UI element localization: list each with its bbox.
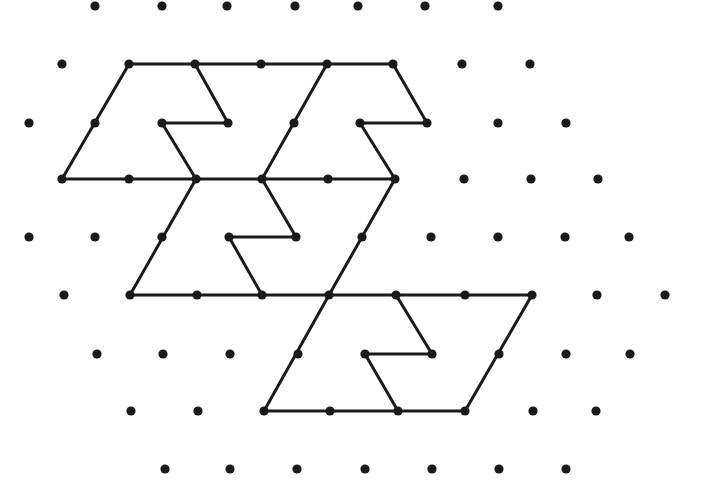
dot-grid-diagram xyxy=(0,0,715,485)
grid-dot xyxy=(157,1,166,10)
grid-dot xyxy=(525,59,534,68)
grid-dot xyxy=(224,232,233,241)
grid-dot xyxy=(459,174,468,183)
grid-dot xyxy=(322,59,331,68)
grid-dot xyxy=(126,406,135,415)
grid-dot xyxy=(193,406,202,415)
grid-dot xyxy=(390,174,399,183)
grid-dot xyxy=(59,290,68,299)
line-segment xyxy=(195,64,228,123)
grid-dot xyxy=(222,1,231,10)
grid-dot xyxy=(292,464,301,473)
grid-dot xyxy=(660,290,669,299)
grid-dot xyxy=(24,118,33,127)
grid-dot xyxy=(289,118,298,127)
grid-dot xyxy=(420,1,429,10)
grid-dot xyxy=(324,290,333,299)
grid-dot xyxy=(157,118,166,127)
grid-dot xyxy=(360,349,369,358)
grid-dot xyxy=(291,232,300,241)
grid-dot xyxy=(90,232,99,241)
grid-dot xyxy=(527,290,536,299)
line-segment xyxy=(393,64,427,123)
grid-dot xyxy=(325,406,334,415)
grid-dot xyxy=(393,406,402,415)
grid-dot xyxy=(526,174,535,183)
grid-dot xyxy=(190,59,199,68)
grid-dot xyxy=(355,118,364,127)
grid-dot xyxy=(259,406,268,415)
grid-dot xyxy=(157,232,166,241)
grid-dot xyxy=(257,290,266,299)
grid-dot xyxy=(124,59,133,68)
grid-dot xyxy=(591,406,600,415)
grid-dot xyxy=(293,349,302,358)
grid-dot xyxy=(290,1,299,10)
grid-dot xyxy=(561,464,570,473)
grid-dot xyxy=(192,290,201,299)
grid-dot xyxy=(592,290,601,299)
grid-dot xyxy=(57,174,66,183)
grid-dot xyxy=(493,118,502,127)
top-right-piece xyxy=(262,64,427,179)
bottom-piece xyxy=(264,295,532,411)
grid-dot xyxy=(561,118,570,127)
grid-dot xyxy=(422,118,431,127)
grid-dot xyxy=(158,349,167,358)
line-segment xyxy=(162,123,196,179)
grid-dot xyxy=(388,59,397,68)
grid-dot xyxy=(191,174,200,183)
grid-dot xyxy=(24,232,33,241)
grid-dot xyxy=(528,406,537,415)
grid-dot xyxy=(625,349,634,358)
grid-dot xyxy=(460,406,469,415)
grid-dot xyxy=(160,464,169,473)
grid-dot xyxy=(427,464,436,473)
grid-dot xyxy=(223,118,232,127)
grid-dot xyxy=(124,174,133,183)
grid-dot xyxy=(360,464,369,473)
grid-dot xyxy=(323,174,332,183)
grid-dot xyxy=(90,118,99,127)
grid-dot xyxy=(493,232,502,241)
grid-dot xyxy=(353,1,362,10)
grid-dot xyxy=(57,59,66,68)
grid-dot xyxy=(391,290,400,299)
line-segment xyxy=(396,295,432,354)
grid-dot xyxy=(494,464,503,473)
grid-dot xyxy=(560,232,569,241)
grid-dots xyxy=(24,1,669,473)
line-segment xyxy=(360,123,395,179)
grid-dot xyxy=(90,1,99,10)
grid-dot xyxy=(457,59,466,68)
grid-dot xyxy=(460,290,469,299)
grid-dot xyxy=(624,232,633,241)
grid-dot xyxy=(225,349,234,358)
grid-dot xyxy=(125,290,134,299)
grid-dot xyxy=(593,174,602,183)
grid-dot xyxy=(493,1,502,10)
figure-svg xyxy=(0,0,715,485)
grid-dot xyxy=(494,349,503,358)
line-segment xyxy=(262,179,296,237)
line-segment xyxy=(365,354,398,411)
grid-dot xyxy=(357,232,366,241)
grid-dot xyxy=(257,174,266,183)
grid-dot xyxy=(256,59,265,68)
grid-dot xyxy=(561,349,570,358)
middle-piece xyxy=(130,179,532,295)
grid-dot xyxy=(427,349,436,358)
grid-dot xyxy=(426,232,435,241)
grid-dot xyxy=(225,464,234,473)
grid-dot xyxy=(92,349,101,358)
line-segment xyxy=(229,237,262,295)
